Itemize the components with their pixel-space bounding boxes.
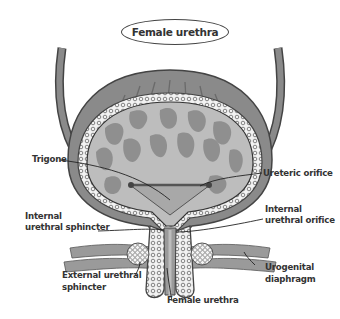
label-external-urethral-sphincter-1: External urethral	[62, 270, 141, 281]
external-sphincter-right	[191, 243, 213, 265]
label-ureteric-orifice: Ureteric orifice	[263, 168, 333, 179]
label-internal-urethral-sphincter-2: urethral sphincter	[25, 222, 110, 233]
diagram-title: Female urethra	[132, 26, 219, 38]
label-internal-urethral-orifice-1: Internal	[265, 204, 302, 215]
label-trigone: Trigone	[32, 154, 67, 165]
label-internal-urethral-orifice-2: urethral orifice	[265, 215, 335, 226]
label-external-urethral-sphincter-2: sphincter	[62, 282, 106, 293]
label-internal-urethral-sphincter-1: Internal	[25, 211, 62, 222]
label-female-urethra: Female urethra	[167, 295, 239, 306]
external-sphincter-left	[127, 243, 149, 265]
label-urogenital-diaphragm-1: Urogenital	[265, 262, 314, 273]
ureteric-orifice-left	[128, 182, 134, 188]
title-pill: Female urethra	[121, 19, 229, 45]
label-urogenital-diaphragm-2: diaphragm	[265, 274, 316, 285]
